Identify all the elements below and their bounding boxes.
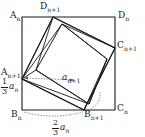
fraction-coefficient: an <box>9 81 18 93</box>
label-D-n: Dn <box>118 11 129 22</box>
fraction-numerator: 2 <box>52 119 59 127</box>
fraction-denominator: 3 <box>52 129 59 137</box>
geometry-figure: An Dn+1 Dn Cn+1 Cn An+1 Bn Bn+1 an+1 1 3… <box>0 0 145 137</box>
label-B-n-plus-1: Bn+1 <box>84 110 104 121</box>
measure-left-one-third-a-n: 1 3 an <box>1 78 18 96</box>
corner-chords <box>22 17 115 110</box>
label-C-n: Cn <box>117 104 128 115</box>
fraction-denominator: 3 <box>1 88 8 96</box>
label-a-n-plus-1: an+1 <box>62 73 80 84</box>
label-D-n-plus-1: Dn+1 <box>40 2 60 13</box>
label-B-n: Bn <box>11 110 22 121</box>
fraction-numerator: 1 <box>1 78 8 86</box>
label-A-n: An <box>10 11 21 22</box>
fraction-coefficient: an <box>60 122 69 134</box>
label-C-n-plus-1: Cn+1 <box>117 41 137 52</box>
measure-bottom-two-thirds-a-n: 2 3 an <box>52 119 69 137</box>
